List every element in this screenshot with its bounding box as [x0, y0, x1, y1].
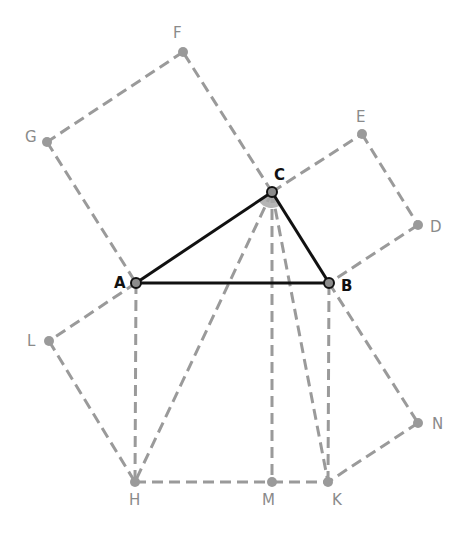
point-c	[267, 187, 277, 197]
triangle-abc	[136, 192, 329, 283]
label-c: C	[274, 166, 285, 184]
segment-nk	[328, 423, 418, 482]
point-k	[323, 477, 333, 487]
segment-ah	[135, 283, 136, 482]
point-l	[44, 336, 54, 346]
point-g	[42, 137, 52, 147]
label-b: B	[341, 277, 352, 295]
label-g: G	[25, 128, 37, 146]
point-labels: ABCDEFGHKLMN	[25, 24, 443, 509]
segment-ce	[272, 134, 362, 192]
label-e: E	[356, 108, 365, 126]
segment-cf	[183, 52, 272, 192]
diagram-canvas: ABCDEFGHKLMN	[0, 0, 471, 535]
segment-lh	[49, 341, 135, 482]
point-n	[413, 418, 423, 428]
point-f	[178, 47, 188, 57]
point-m	[267, 477, 277, 487]
segment-bn	[329, 283, 418, 423]
label-m: M	[262, 491, 275, 509]
label-k: K	[332, 491, 343, 509]
segment-ed	[362, 134, 418, 225]
side-bc	[272, 192, 329, 283]
point-b	[324, 278, 334, 288]
point-d	[413, 220, 423, 230]
label-d: D	[430, 218, 442, 236]
segment-fg	[47, 52, 183, 142]
side-ca	[136, 192, 272, 283]
point-h	[130, 477, 140, 487]
point-e	[357, 129, 367, 139]
label-h: H	[129, 491, 140, 509]
segment-db	[329, 225, 418, 283]
segment-kb	[328, 283, 329, 482]
geometry-figure: ABCDEFGHKLMN	[0, 0, 471, 535]
point-a	[131, 278, 141, 288]
segment-ch	[135, 192, 272, 482]
segment-ga	[47, 142, 136, 283]
label-l: L	[27, 332, 36, 350]
label-n: N	[432, 415, 443, 433]
label-a: A	[114, 274, 126, 292]
label-f: F	[173, 24, 182, 42]
